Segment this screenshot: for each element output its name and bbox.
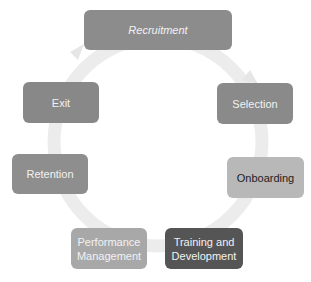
node-recruitment: Recruitment bbox=[84, 10, 232, 50]
node-performance-management: Performance Management bbox=[71, 228, 147, 269]
node-retention: Retention bbox=[12, 154, 88, 194]
node-label: Retention bbox=[26, 167, 73, 181]
node-label: Onboarding bbox=[237, 171, 295, 185]
node-selection: Selection bbox=[217, 83, 293, 124]
node-label: Recruitment bbox=[128, 23, 187, 37]
node-onboarding: Onboarding bbox=[227, 157, 304, 198]
node-label: Performance Management bbox=[75, 235, 143, 263]
arrow-head-icon bbox=[70, 44, 84, 60]
node-label: Selection bbox=[232, 97, 277, 111]
node-label: Exit bbox=[52, 96, 70, 110]
node-label: Training and Development bbox=[169, 235, 239, 263]
node-exit: Exit bbox=[23, 82, 99, 123]
node-training-and-development: Training and Development bbox=[165, 228, 243, 269]
